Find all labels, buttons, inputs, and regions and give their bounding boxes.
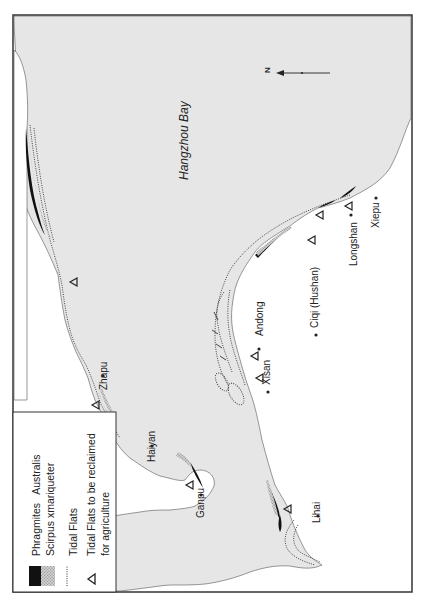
north-arrow-label: N bbox=[263, 67, 272, 73]
place-dot bbox=[266, 390, 269, 393]
legend-swatch-phragmites bbox=[29, 566, 41, 586]
legend-label-tidal-flats: Tidal Flats bbox=[67, 508, 79, 556]
legend-label-reclaim-line2: for agriculture bbox=[99, 492, 111, 556]
legend-label-scirpus: Scirpus xmariqueter bbox=[44, 462, 56, 556]
legend-label-reclaim: Tidal Flats to be reclaimed bbox=[85, 433, 97, 556]
place-label-xisan: Xisan bbox=[261, 360, 272, 385]
place-label-ciqi: Ciqi (Hushan) bbox=[309, 267, 320, 328]
hangzhou-bay-map: Hangzhou Bay Zhapu Haiyan Ganpu Lihai Xi… bbox=[0, 0, 427, 610]
place-label-haiyan: Haiyan bbox=[146, 431, 157, 462]
place-dot bbox=[349, 213, 352, 216]
north-shore-land bbox=[14, 50, 28, 400]
place-label-longshan: Longshan bbox=[348, 222, 359, 266]
place-dot bbox=[314, 333, 317, 336]
legend-label-phragmites: Phragmites Australis bbox=[30, 454, 42, 556]
place-label-zhapu: Zhapu bbox=[98, 362, 109, 390]
legend: Phragmites Australis Scirpus xmariqueter… bbox=[13, 412, 116, 592]
place-dot bbox=[257, 347, 260, 350]
bay-label: Hangzhou Bay bbox=[177, 100, 191, 180]
legend-swatch-scirpus bbox=[41, 566, 55, 586]
place-label-lihai: Lihai bbox=[311, 502, 322, 523]
place-label-xiepu: Xiepu bbox=[370, 202, 381, 228]
place-label-andong: Andong bbox=[254, 302, 265, 336]
place-label-ganpu: Ganpu bbox=[195, 488, 206, 518]
place-dot bbox=[374, 196, 377, 199]
